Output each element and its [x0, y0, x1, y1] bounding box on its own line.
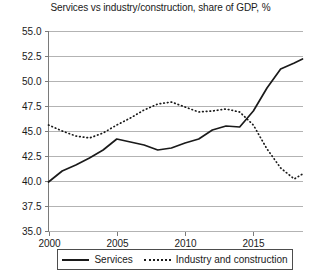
series-line-industry-and-construction — [49, 102, 303, 179]
x-axis-tick-label: 2000 — [38, 238, 61, 249]
y-axis-tick-label: 50.0 — [22, 76, 42, 87]
x-axis-tick-label: 2010 — [174, 238, 197, 249]
chart-legend: Services Industry and construction — [57, 249, 293, 270]
y-axis-tick-label: 42.5 — [22, 151, 42, 162]
gridlines — [45, 32, 303, 232]
y-axis-tick-label: 40.0 — [22, 176, 42, 187]
legend-swatch-dotted-icon — [144, 259, 171, 261]
y-axis-tick-label: 35.0 — [22, 226, 42, 237]
series-line-services — [49, 59, 303, 182]
y-axis-tick-label: 47.5 — [22, 101, 42, 112]
y-axis-tick-label: 37.5 — [22, 201, 42, 212]
legend-item-services: Services — [62, 254, 132, 265]
y-axis-tick-label: 55.0 — [22, 26, 42, 37]
x-axis-tick-label: 2005 — [106, 238, 129, 249]
y-axis-tick-label: 52.5 — [22, 51, 42, 62]
y-axis-tick-labels: 35.037.540.042.545.047.550.052.555.0 — [22, 26, 42, 237]
x-axis-tick-labels: 2000200520102015 — [38, 238, 265, 249]
legend-label-industry-and-construction: Industry and construction — [176, 254, 288, 265]
legend-label-services: Services — [94, 254, 132, 265]
legend-swatch-solid-icon — [62, 259, 89, 261]
x-axis-ticks — [50, 232, 254, 236]
x-axis-tick-label: 2015 — [242, 238, 265, 249]
chart-container: Services vs industry/construction, share… — [0, 0, 321, 279]
legend-item-industry-and-construction: Industry and construction — [144, 254, 288, 265]
y-axis-tick-label: 45.0 — [22, 126, 42, 137]
plot-area: 35.037.540.042.545.047.550.052.555.0 200… — [0, 0, 321, 279]
